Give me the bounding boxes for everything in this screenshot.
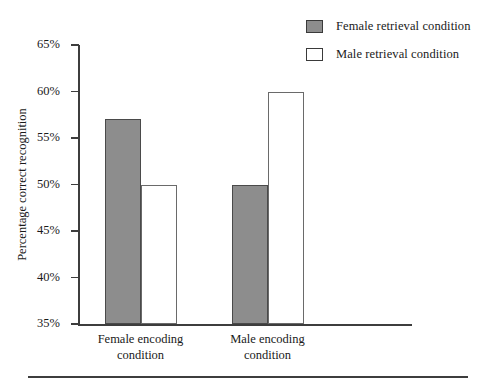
y-axis-tick-label: 40% — [37, 269, 60, 284]
bar-female-retrieval-male-encoding — [232, 185, 268, 325]
y-axis-tick-label: 45% — [37, 223, 60, 238]
y-axis-tick: 60% — [71, 91, 79, 93]
y-axis-tick-label: 60% — [37, 83, 60, 98]
x-axis-group-label: Male encodingcondition — [230, 332, 305, 363]
y-axis-title: Percentage correct recognition — [13, 45, 31, 324]
legend-swatch-filled-gray-square — [306, 20, 323, 33]
y-axis-tick-label: 55% — [37, 130, 60, 145]
x-axis-group-label-line: Female encoding — [98, 332, 184, 348]
y-axis-tick: 55% — [71, 137, 79, 139]
legend-item-female-retrieval: Female retrieval condition — [306, 14, 494, 38]
bar-chart-figure: Female retrieval condition Male retrieva… — [0, 0, 494, 387]
y-axis-tick: 45% — [71, 230, 79, 232]
bar-male-retrieval-male-encoding — [268, 92, 304, 325]
x-axis-group-label-line: condition — [230, 348, 305, 364]
y-axis-tick: 65% — [71, 44, 79, 46]
y-axis-tick-label: 35% — [37, 316, 60, 331]
bar-female-retrieval-female-encoding — [105, 119, 141, 324]
bottom-divider-rule — [28, 376, 468, 378]
plot-area: 65%60%55%50%45%40%35% Female encodingcon… — [78, 45, 412, 324]
x-axis-group-label-line: condition — [98, 348, 184, 364]
bar-male-retrieval-female-encoding — [141, 185, 177, 325]
x-axis-group-label: Female encodingcondition — [98, 332, 184, 363]
y-axis-tick: 50% — [71, 184, 79, 186]
y-axis-tick-label: 50% — [37, 176, 60, 191]
x-axis-line — [78, 324, 412, 326]
y-axis-title-text: Percentage correct recognition — [15, 108, 30, 261]
x-axis-group-label-line: Male encoding — [230, 332, 305, 348]
y-axis-tick: 35% — [71, 323, 79, 325]
legend-label-female-retrieval: Female retrieval condition — [336, 19, 471, 33]
y-axis-tick-label: 65% — [37, 37, 60, 52]
y-axis-tick: 40% — [71, 277, 79, 279]
